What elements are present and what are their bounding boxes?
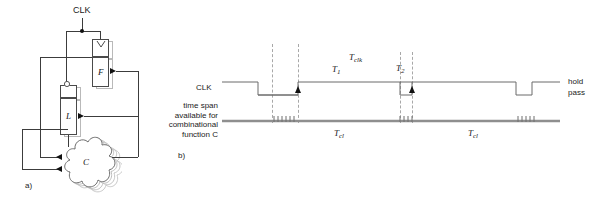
span-hatch-region-3 bbox=[516, 113, 538, 125]
guide-line-t1-end bbox=[298, 44, 299, 123]
pass-label: pass bbox=[568, 89, 585, 97]
clk-waveform bbox=[0, 0, 604, 200]
annotation-t-cl-left-subscript: cl bbox=[339, 132, 344, 140]
annotation-t-1-subscript: 1 bbox=[337, 68, 341, 76]
clk-rising-edge-marker-2 bbox=[409, 86, 415, 93]
annotation-t-2: T2 bbox=[396, 57, 405, 75]
panel-b-caption: b) bbox=[178, 152, 185, 160]
annotation-t-1: T1 bbox=[332, 58, 341, 76]
annotation-t-cl-right-subscript: cl bbox=[473, 132, 478, 140]
span-label-line-4: function C bbox=[150, 130, 218, 140]
annotation-t-clk: Tclk bbox=[349, 46, 362, 64]
annotation-t-clk-subscript: clk bbox=[354, 56, 362, 64]
figure-root: CLK F bbox=[0, 0, 604, 200]
timing-clk-row-label: CLK bbox=[196, 84, 212, 92]
annotation-t-cl-left: Tcl bbox=[334, 122, 344, 140]
span-hatch-region-2 bbox=[398, 113, 414, 125]
span-hatch-region-1 bbox=[272, 113, 300, 125]
annotation-t-cl-right: Tcl bbox=[468, 122, 478, 140]
annotation-t-2-subscript: 2 bbox=[401, 67, 405, 75]
clk-rising-edge-marker-1 bbox=[295, 86, 301, 93]
timing-span-row-label: time span available for combinational fu… bbox=[150, 101, 218, 139]
hold-label: hold bbox=[568, 78, 583, 86]
span-label-line-2: available for bbox=[150, 111, 218, 121]
panel-b-timing: CLK time span available for combinationa… bbox=[0, 0, 604, 200]
guide-line-t1-start bbox=[272, 44, 273, 123]
span-label-line-1: time span bbox=[150, 101, 218, 111]
span-label-line-3: combinational bbox=[150, 120, 218, 130]
